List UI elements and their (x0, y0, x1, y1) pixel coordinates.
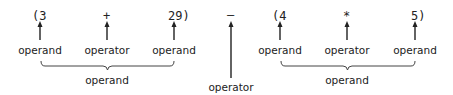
token-plus: + (103, 10, 110, 22)
arrow-icon (172, 21, 177, 40)
arrow-icon (105, 21, 110, 40)
brace-icon (281, 61, 415, 70)
group-label-operand-right: operand (325, 74, 369, 86)
expression-parse-diagram: (3 + 29) – (4 * 5) operand operator oper… (0, 0, 453, 95)
label-operator: operator (324, 44, 369, 56)
token-times: * (343, 10, 350, 22)
label-operand: operand (152, 44, 196, 56)
token-29-close: 29) (168, 10, 190, 22)
arrow-icon (278, 21, 283, 40)
label-operator-main: operator (208, 81, 253, 93)
label-operator: operator (84, 44, 129, 56)
arrow-icon (413, 21, 418, 40)
arrow-icon (229, 21, 234, 78)
token-open-4: (4 (272, 10, 286, 22)
group-label-operand-left: operand (85, 74, 129, 86)
brace-icon (41, 61, 174, 70)
label-operand: operand (258, 44, 302, 56)
token-5-close: 5) (411, 10, 425, 22)
arrow-icon (345, 21, 350, 40)
label-operand: operand (18, 44, 62, 56)
arrow-icon (38, 21, 43, 40)
token-minus: – (227, 9, 234, 21)
label-operand: operand (393, 44, 437, 56)
token-open-3: (3 (32, 10, 46, 22)
